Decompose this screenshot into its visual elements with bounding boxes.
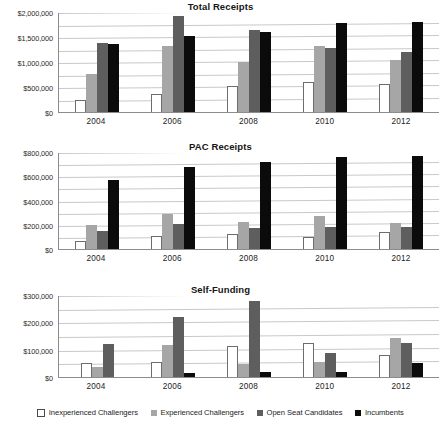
bar-group [59, 153, 135, 249]
bar[interactable] [336, 157, 347, 249]
y-axis-tick-mark [58, 202, 59, 203]
bar[interactable] [325, 48, 336, 113]
bar[interactable] [412, 22, 423, 112]
bar-group [135, 153, 211, 249]
bar[interactable] [173, 16, 184, 112]
y-axis-tick-mark [58, 177, 59, 178]
x-axis-label: 2012 [363, 117, 439, 126]
bar[interactable] [379, 84, 390, 113]
bar[interactable] [260, 162, 271, 249]
bar[interactable] [162, 345, 173, 377]
bar[interactable] [390, 60, 401, 112]
bar[interactable] [81, 363, 92, 377]
y-axis-tick-label: $400,000 [23, 197, 53, 206]
y-axis-tick-label: $200,000 [23, 319, 53, 328]
x-axis-label: 2006 [134, 382, 210, 391]
legend-swatch-icon [257, 410, 263, 416]
bar[interactable] [151, 236, 162, 249]
legend-item[interactable]: Experienced Challengers [151, 408, 244, 417]
x-axis-label: 2012 [363, 254, 439, 263]
bar[interactable] [86, 74, 97, 113]
bar[interactable] [184, 373, 195, 377]
bar[interactable] [108, 44, 119, 112]
bar[interactable] [314, 46, 325, 113]
bar[interactable] [303, 343, 314, 377]
bar[interactable] [249, 228, 260, 249]
x-axis-label: 2006 [134, 117, 210, 126]
bar[interactable] [227, 86, 238, 112]
bar[interactable] [325, 353, 336, 377]
x-axis-label: 2006 [134, 254, 210, 263]
bar[interactable] [151, 362, 162, 377]
bar[interactable] [108, 180, 119, 249]
bar[interactable] [260, 32, 271, 113]
bar[interactable] [238, 222, 249, 249]
legend-item[interactable]: Incumbents [355, 408, 403, 417]
y-axis-tick-mark [58, 88, 59, 89]
bar[interactable] [184, 167, 195, 249]
y-axis-tick-label: $0 [45, 246, 53, 255]
bar[interactable] [173, 317, 184, 377]
bar[interactable] [401, 227, 412, 249]
bar[interactable] [103, 344, 114, 377]
y-axis-tick-mark [58, 226, 59, 227]
bar[interactable] [314, 362, 325, 377]
bar-group [287, 153, 363, 249]
x-axis-label: 2004 [58, 254, 134, 263]
legend-label: Experienced Challengers [160, 408, 244, 417]
bar[interactable] [238, 364, 249, 377]
bar[interactable] [390, 338, 401, 377]
bar[interactable] [325, 227, 336, 249]
bar[interactable] [97, 43, 108, 113]
bar[interactable] [162, 214, 173, 249]
bar[interactable] [260, 372, 271, 377]
bar[interactable] [412, 363, 423, 377]
bar[interactable] [227, 346, 238, 377]
y-axis-tick-mark [58, 323, 59, 324]
bar[interactable] [336, 23, 347, 112]
bar[interactable] [92, 367, 103, 377]
bar[interactable] [401, 52, 412, 112]
bar-group [59, 296, 135, 377]
bar[interactable] [75, 241, 86, 249]
x-axis-label: 2010 [287, 254, 363, 263]
y-axis-tick-mark [58, 13, 59, 14]
y-axis-tick-label: $100,000 [23, 346, 53, 355]
bar[interactable] [184, 36, 195, 112]
bar[interactable] [401, 343, 412, 377]
x-axis-label: 2008 [210, 382, 286, 391]
bar[interactable] [314, 216, 325, 249]
x-axis-label: 2012 [363, 382, 439, 391]
bar[interactable] [151, 94, 162, 113]
bar[interactable] [238, 62, 249, 112]
x-axis-labels: 20042006200820102012 [58, 254, 439, 263]
bar-group [135, 296, 211, 377]
bar[interactable] [336, 372, 347, 377]
bar[interactable] [173, 224, 184, 249]
bar[interactable] [249, 301, 260, 377]
legend-item[interactable]: Open Seat Candidates [257, 408, 342, 417]
bar-group [211, 296, 287, 377]
bar[interactable] [412, 156, 423, 249]
bar[interactable] [75, 100, 86, 113]
y-axis: $0$500,000$1,000,000$1,500,000$2,000,000 [0, 13, 57, 113]
chart-pac-receipts: PAC Receipts $0$200,000$400,000$600,000$… [0, 140, 441, 273]
bar[interactable] [162, 46, 173, 113]
x-axis-label: 2004 [58, 117, 134, 126]
bar-groups [59, 296, 439, 377]
bar[interactable] [303, 82, 314, 112]
legend-swatch-icon [355, 410, 361, 416]
y-axis-tick-label: $200,000 [23, 221, 53, 230]
bar[interactable] [227, 234, 238, 249]
bar[interactable] [303, 237, 314, 249]
y-axis-tick-mark [58, 38, 59, 39]
bar[interactable] [379, 355, 390, 377]
bar[interactable] [390, 223, 401, 249]
bar[interactable] [379, 232, 390, 249]
bar[interactable] [86, 225, 97, 249]
bar[interactable] [97, 231, 108, 249]
x-axis-label: 2008 [210, 254, 286, 263]
bar[interactable] [249, 30, 260, 112]
legend-label: Open Seat Candidates [267, 408, 343, 417]
legend-item[interactable]: Inexperienced Challengers [37, 408, 138, 417]
